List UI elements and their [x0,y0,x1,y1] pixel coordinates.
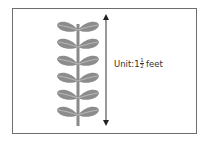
fraction-denominator: 2 [140,64,144,69]
unit-prefix: Unit: [114,59,134,69]
plant-icon [56,14,100,126]
double-arrow-icon [101,14,111,126]
unit-whole: 1 [134,59,139,69]
unit-label: Unit: 1 1 2 feet [114,58,163,69]
unit-suffix: feet [146,59,163,69]
unit-fraction: 1 2 [140,58,144,69]
